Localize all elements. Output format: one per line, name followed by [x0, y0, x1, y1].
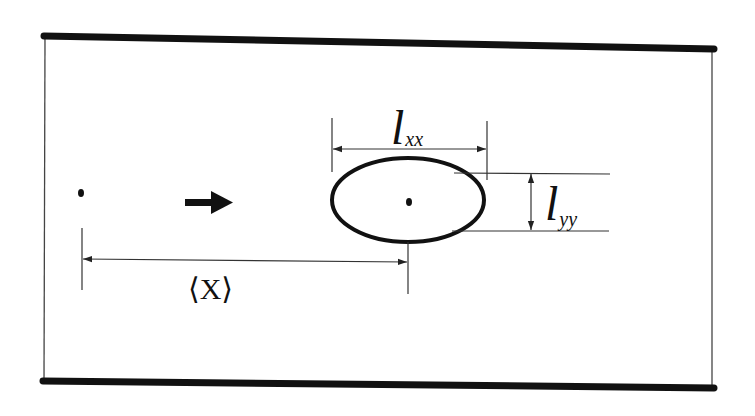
lyy-symbol: l: [545, 177, 558, 230]
flow-direction-arrow-icon: [185, 191, 233, 214]
diagram-canvas: [0, 0, 755, 416]
lxx-label: lxx: [391, 104, 422, 152]
x-mean-label: ⟨X⟩: [188, 274, 233, 304]
bottom-wall: [43, 381, 714, 388]
x-mean-dimension: [82, 228, 408, 294]
top-wall: [44, 36, 714, 49]
origin-dot: [78, 189, 84, 197]
lxx-symbol: l: [391, 101, 404, 154]
channel-droplet-figure: lxx lyy ⟨X⟩: [0, 0, 755, 416]
lxx-subscript: xx: [405, 128, 423, 150]
lyy-subscript: yy: [559, 208, 577, 230]
droplet-center-dot: [406, 198, 412, 206]
lyy-label: lyy: [545, 180, 576, 228]
left-boundary-line: [44, 37, 45, 381]
